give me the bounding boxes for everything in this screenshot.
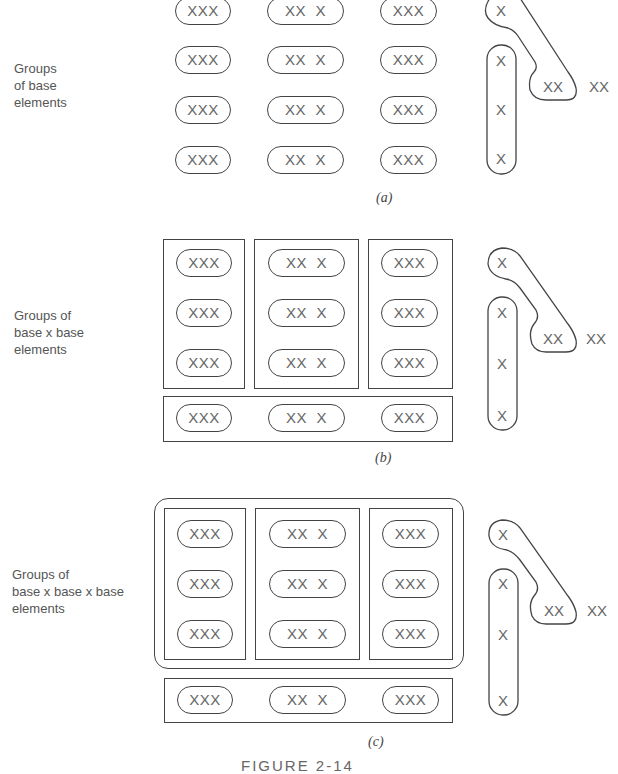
element-x: X: [498, 626, 508, 643]
element-x: X: [498, 692, 508, 709]
trailing-xx: XX: [587, 602, 607, 619]
diagonal-group-shape: [0, 0, 618, 774]
pair-xx: XX: [544, 602, 564, 619]
element-x: X: [498, 575, 508, 592]
panel-c-caption: (c): [368, 734, 384, 750]
figure-caption: FIGURE 2-14: [241, 757, 354, 774]
element-x: X: [498, 526, 508, 543]
